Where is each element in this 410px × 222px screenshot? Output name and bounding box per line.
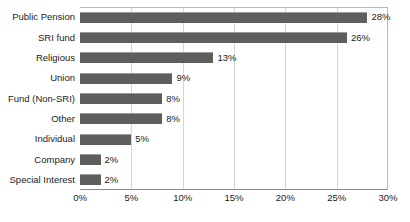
bar-rows: Public Pension28%SRI fund26%Religious13%… (0, 7, 410, 190)
bar-value-label: 2% (105, 155, 119, 165)
category-label: Religious (0, 53, 75, 63)
bar-chart: Public Pension28%SRI fund26%Religious13%… (0, 0, 410, 222)
bar-row: Fund (Non-SRI)8% (0, 88, 410, 108)
x-tick-label: 10% (173, 193, 192, 203)
x-tick-label: 20% (276, 193, 295, 203)
bar-value-label: 5% (135, 134, 149, 144)
bar (80, 113, 162, 124)
bar-value-label: 28% (371, 12, 390, 22)
x-tick-label: 25% (327, 193, 346, 203)
x-tick-label: 5% (124, 193, 138, 203)
bar-value-label: 2% (105, 175, 119, 185)
bar (80, 32, 347, 43)
bar-row: Union9% (0, 68, 410, 88)
category-label: Public Pension (0, 12, 75, 22)
category-label: Union (0, 73, 75, 83)
bar (80, 52, 213, 63)
bar-row: Religious13% (0, 48, 410, 68)
bar-value-label: 8% (166, 94, 180, 104)
bar-value-label: 9% (176, 73, 190, 83)
category-label: Special Interest (0, 175, 75, 185)
bar-value-label: 26% (351, 33, 370, 43)
bar-row: Special Interest2% (0, 170, 410, 190)
bar-value-label: 8% (166, 114, 180, 124)
bar (80, 73, 172, 84)
bar (80, 134, 131, 145)
category-label: Company (0, 155, 75, 165)
bar-row: Other8% (0, 109, 410, 129)
bar (80, 174, 101, 185)
x-tick-label: 15% (224, 193, 243, 203)
x-axis-tick-labels: 0%5%10%15%20%25%30% (0, 193, 410, 209)
category-label: SRI fund (0, 33, 75, 43)
category-label: Other (0, 114, 75, 124)
bar-row: Company2% (0, 149, 410, 169)
bar-row: Public Pension28% (0, 7, 410, 27)
bar-row: Individual5% (0, 129, 410, 149)
bar (80, 12, 367, 23)
x-tick-label: 30% (378, 193, 397, 203)
bar (80, 154, 101, 165)
bar (80, 93, 162, 104)
bar-row: SRI fund26% (0, 27, 410, 47)
x-tick-label: 0% (73, 193, 87, 203)
category-label: Fund (Non-SRI) (0, 94, 75, 104)
bar-value-label: 13% (217, 53, 236, 63)
category-label: Individual (0, 134, 75, 144)
